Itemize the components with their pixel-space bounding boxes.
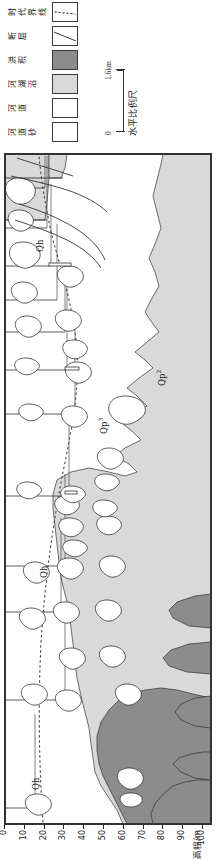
axis-tick-label: 20	[40, 830, 48, 840]
legend-item-river-sand[interactable]: 河 道 砂	[8, 120, 100, 142]
unit-label-qp3: Qp3	[97, 418, 109, 434]
legend-item-river-lake-marsh[interactable]: 河 湖 沼	[8, 72, 100, 94]
legend: 0 1.6km 水平比例尺 河 道 砂	[4, 0, 212, 146]
legend-label-era-boundary: 时 代 界 线	[8, 1, 50, 23]
legend-swatch-river-lake-marsh	[52, 74, 78, 94]
axis-tick	[202, 825, 203, 829]
facies-lake-upper-right-2	[49, 154, 67, 178]
legend-label-flood-deposit: 洪 积	[8, 49, 50, 71]
unit-label-qh-right: Qh	[35, 240, 45, 252]
scale-tick-left	[116, 131, 125, 132]
cross-section-panel: Qh Qh Qh Qp3 Qp2	[4, 153, 212, 825]
axis-tick	[83, 825, 84, 829]
legend-item-river-channel[interactable]: 河 道	[8, 96, 100, 118]
unit-label-qh-mid: Qh	[39, 566, 49, 578]
axis-tick-label: 90	[178, 830, 186, 840]
cross-section-graphic	[5, 154, 211, 824]
axis-tick-label: 40	[79, 830, 87, 840]
legend-item-era-boundary[interactable]: 时 代 界 线	[8, 0, 100, 22]
axis-tick	[182, 825, 183, 829]
scale-label-left: 0	[104, 131, 113, 135]
unit-label-qh-left: Qh	[31, 778, 41, 790]
legend-swatch-fault	[52, 26, 78, 46]
axis-tick-label: 30	[59, 830, 67, 840]
legend-label-fault: 断 层	[8, 25, 50, 47]
axis-tick-label: 0	[0, 830, 8, 835]
scale-bar-title: 水平比例尺	[126, 90, 139, 136]
axis-tick-label: 80	[158, 830, 166, 840]
axis-tick	[44, 825, 45, 829]
scale-bar-rule	[117, 70, 124, 132]
axis-tick	[103, 825, 104, 829]
scale-tick-right	[116, 69, 125, 70]
scale-bar: 0 1.6km 水平比例尺	[104, 44, 138, 140]
legend-items: 河 道 砂 河 道	[8, 0, 102, 146]
axis-tick	[123, 825, 124, 829]
axis-tick	[143, 825, 144, 829]
axis-tick-label: 10	[20, 830, 28, 840]
scale-label-right: 1.6km	[104, 61, 113, 80]
unit-label-qp2: Qp2	[155, 370, 167, 386]
axis-tick	[24, 825, 25, 829]
legend-swatch-river-sand	[52, 122, 78, 142]
axis-tick	[162, 825, 163, 829]
legend-label-river-sand: 河 道 砂	[8, 121, 50, 143]
legend-swatch-river-channel	[52, 98, 78, 118]
legend-swatch-era-boundary	[52, 2, 78, 22]
axis-tick-label: 60	[119, 830, 127, 840]
axis-tick-label: 100	[198, 830, 206, 845]
legend-item-flood-deposit[interactable]: 洪 积	[8, 48, 100, 70]
fault-icon	[53, 27, 77, 45]
axis-tick	[4, 825, 5, 829]
legend-label-river-channel: 河 道	[8, 97, 50, 119]
legend-item-fault[interactable]: 断 层	[8, 24, 100, 46]
axis-tick-label: 70	[139, 830, 147, 840]
axis-tick-label: 50	[99, 830, 107, 840]
legend-swatch-flood-deposit	[52, 50, 78, 70]
era-boundary-icon	[53, 3, 77, 21]
legend-label-river-lake-marsh: 河 湖 沼	[8, 73, 50, 95]
axis-tick	[63, 825, 64, 829]
elevation-axis: 高程/m 0 10 20 30 40 50 60 70 80	[4, 825, 212, 849]
